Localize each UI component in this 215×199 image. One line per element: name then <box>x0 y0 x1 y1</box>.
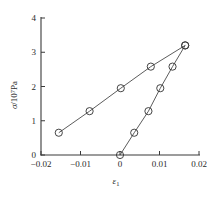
series-line-series-lower-right <box>120 45 185 155</box>
data-point <box>86 108 93 115</box>
y-axis-title: σ/107Pa <box>9 81 19 109</box>
data-point <box>131 129 138 136</box>
x-ticklabel-0: 0 <box>118 159 123 169</box>
y-axis-ticks <box>41 18 45 155</box>
x-axis-tick-labels: −0.02 −0.01 0 0.01 0.02 <box>31 159 207 169</box>
data-series-layer <box>55 42 189 159</box>
y-ticklabel-1: 1 <box>32 116 37 126</box>
data-point <box>55 129 62 136</box>
x-ticklabel-002: 0.02 <box>191 159 207 169</box>
y-axis-title-divider: /10 <box>9 93 19 105</box>
y-ticklabel-2: 2 <box>32 82 37 92</box>
y-ticklabel-4: 4 <box>32 13 37 23</box>
data-point <box>169 63 176 70</box>
data-point <box>182 42 189 49</box>
x-ticklabel-001: 0.01 <box>152 159 168 169</box>
x-axis-title-subscript: 1 <box>116 180 119 187</box>
y-axis-title-unit: Pa <box>9 81 19 90</box>
data-point <box>116 151 123 158</box>
data-point <box>157 85 164 92</box>
data-point <box>147 63 154 70</box>
x-ticklabel-neg002: −0.02 <box>31 159 52 169</box>
chart-figure: 0 1 2 3 4 −0.02 −0.01 0 0.01 0.02 ε1 σ/1… <box>0 0 215 199</box>
data-point <box>145 108 152 115</box>
x-ticklabel-neg001: −0.01 <box>70 159 91 169</box>
data-point <box>117 85 124 92</box>
y-axis-tick-labels: 0 1 2 3 4 <box>32 13 37 160</box>
y-ticklabel-3: 3 <box>32 47 37 57</box>
x-axis-title: ε1 <box>113 176 120 187</box>
stress-strain-plot: 0 1 2 3 4 −0.02 −0.01 0 0.01 0.02 ε1 σ/1… <box>0 0 215 199</box>
